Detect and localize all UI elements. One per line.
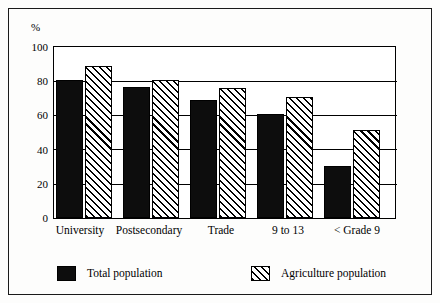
legend-label-total-population: Total population — [87, 267, 163, 279]
y-tick-label-40: 40 — [8, 145, 48, 156]
bar-9-to-13-agriculture — [286, 97, 313, 218]
legend-entry-total-population: Total population — [57, 264, 163, 282]
y-tick-label-60: 60 — [8, 110, 48, 121]
y-tick-label-20: 20 — [8, 179, 48, 190]
bar-trade-agriculture — [219, 88, 246, 218]
legend-swatch-hatched-icon — [251, 266, 270, 281]
bar-postsecondary-agriculture — [152, 80, 179, 218]
y-axis-unit-label: % — [31, 22, 40, 33]
legend-swatch-solid-icon — [57, 266, 76, 281]
y-tick-label-0: 0 — [8, 213, 48, 224]
plot-area — [53, 46, 396, 219]
y-tick-label-100: 100 — [8, 42, 48, 53]
bar-trade-total — [190, 100, 217, 218]
chart-figure: % 100 80 60 40 20 0 University Postsecon… — [0, 0, 440, 303]
bar-university-total — [56, 80, 83, 218]
bar-postsecondary-total — [123, 87, 150, 219]
bar-university-agriculture — [85, 66, 112, 218]
legend-label-agriculture-population: Agriculture population — [281, 267, 386, 279]
bar-less-than-grade-9-agriculture — [353, 130, 380, 218]
x-tick-label-less-than-grade-9: < Grade 9 — [305, 224, 409, 236]
bar-less-than-grade-9-total — [324, 166, 351, 218]
legend-entry-agriculture-population: Agriculture population — [251, 264, 386, 282]
bar-9-to-13-total — [257, 114, 284, 218]
y-tick-label-80: 80 — [8, 76, 48, 87]
